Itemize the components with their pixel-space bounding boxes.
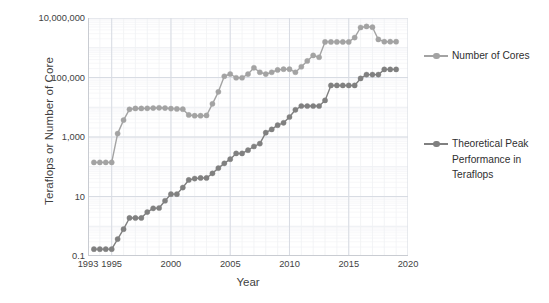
x-tick-label: 2005 [200, 259, 260, 269]
x-tick-label: 2015 [319, 259, 379, 269]
legend-dot [433, 141, 440, 148]
legend-marker-icon [424, 138, 448, 150]
x-axis-title: Year [88, 276, 408, 288]
legend-entry[interactable]: Number of Cores [424, 48, 530, 64]
x-tick-label: 2010 [259, 259, 319, 269]
x-tick-label: 2020 [378, 259, 438, 269]
legend-dot [433, 53, 440, 60]
chart-container: Teraflops or Number of Core 0.1101,00010… [0, 0, 549, 303]
x-tick-label: 2000 [141, 259, 201, 269]
legend-label: Theoretical Peak Performance in Teraflop… [448, 136, 528, 183]
legend-marker-icon [424, 50, 448, 62]
legend-entry[interactable]: Theoretical Peak Performance in Teraflop… [424, 136, 528, 183]
legend-label: Number of Cores [448, 48, 530, 64]
x-tick-label: 1995 [82, 259, 142, 269]
